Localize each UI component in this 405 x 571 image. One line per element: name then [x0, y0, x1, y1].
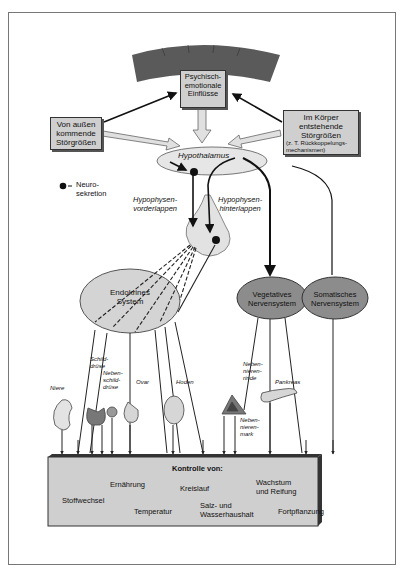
control-item: Kreislauf [180, 485, 209, 494]
external-disturbance-box: Von außen kommende Störgrößen [50, 117, 102, 150]
somatic-label: Somatisches Nervensystem [302, 290, 368, 308]
parathyroid-shape [107, 407, 117, 417]
neurosecretion-dot-2 [212, 236, 220, 244]
organ-label-ovar: Ovar [136, 378, 149, 387]
psych-emotional-box: Psychisch- emotionale Einflüsse [180, 70, 226, 108]
ovary-shape [124, 402, 138, 423]
internal-box-note: (z. T. Rückkoppelungs- mechanismen) [286, 140, 356, 153]
control-title: Kontrolle von: [172, 465, 223, 474]
arrow-external-to-psych [104, 93, 176, 122]
control-item: Salz- und Wasserhaushalt [200, 502, 254, 519]
organ-label-nnm: Neben- nieren- mark [240, 417, 260, 438]
organ-label-nebenschild: Neben- schild- drüse [103, 370, 123, 391]
control-item: Fortpflanzung [278, 508, 324, 517]
endocrine-label: Endokrines System [100, 288, 160, 306]
arrow-internal-to-psych [233, 94, 282, 122]
vegetative-label: Vegetatives Nervensystem [238, 290, 306, 308]
hvl-label: Hypophysen- vorderlappen [133, 196, 177, 213]
neurosecretion-dot-1 [190, 168, 198, 176]
legend-dot [60, 183, 67, 190]
organ-label-schilddruese: Schild- drüse [90, 356, 108, 370]
pancreas-shape [261, 389, 297, 403]
control-item: Temperatur [134, 508, 172, 517]
organ-label-pankreas: Pankreas [275, 378, 300, 387]
organ-label-hoden: Hoden [176, 378, 194, 387]
control-item: Wachstum und Reifung [256, 479, 296, 496]
glands [54, 389, 297, 431]
hhl-label: Hypophysen- hinterlappen [218, 196, 262, 213]
hollow-arrows [102, 107, 281, 150]
neurosecretion-legend: Neuro- sekretion [76, 181, 106, 198]
control-item: Stoffwechsel [62, 497, 104, 506]
hypothalamus-label: Hypothalamus [178, 152, 229, 161]
internal-box-title: Im Körper entstehende Störgrößen [286, 113, 356, 140]
kidney-shape [54, 400, 72, 430]
internal-disturbance-box: Im Körper entstehende Störgrößen (z. T. … [283, 110, 359, 155]
organ-label-niere: Niere [50, 384, 64, 393]
organ-label-nnr: Neben- nieren- rinde [243, 361, 263, 382]
control-item: Ernährung [110, 481, 145, 490]
testis-shape [164, 396, 184, 424]
